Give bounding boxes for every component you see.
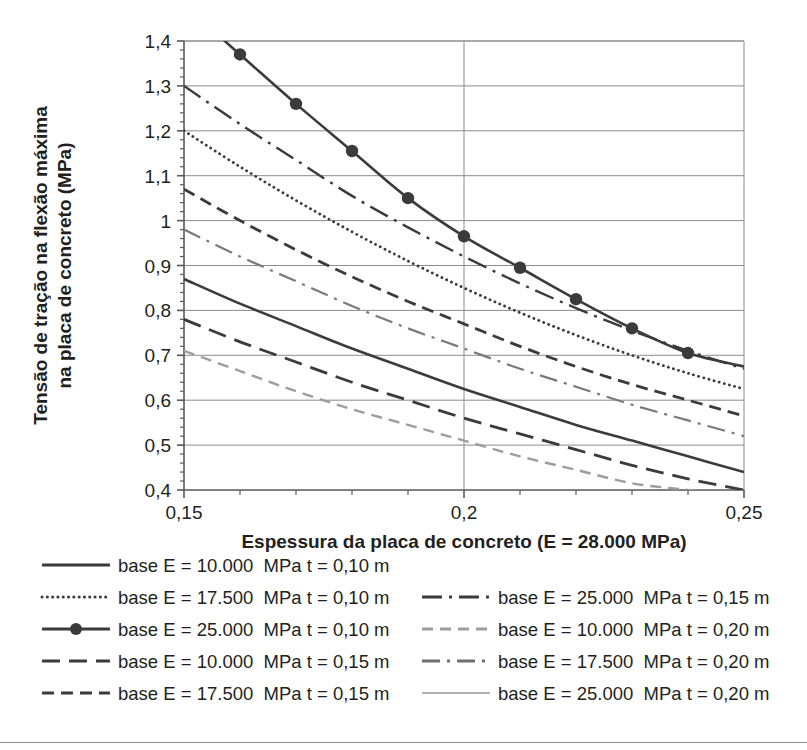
- legend-item-label: base E = 17.500 MPa t = 0,10 m: [118, 587, 390, 608]
- footer-divider: [0, 742, 807, 743]
- series-marker: [346, 145, 358, 157]
- legend-item[interactable]: base E = 10.000 MPa t = 0,15 m: [42, 651, 390, 672]
- legend: base E = 10.000 MPa t = 0,10 mbase E = 1…: [42, 555, 770, 704]
- series-marker: [402, 192, 414, 204]
- legend-item-label: base E = 25.000 MPa t = 0,10 m: [118, 619, 390, 640]
- y-tick-label: 1,1: [145, 166, 171, 187]
- series-marker: [514, 262, 526, 274]
- y-axis-title-line: Tensão de tração na flexão máxima: [30, 106, 51, 425]
- legend-item[interactable]: base E = 25.000 MPa t = 0,15 m: [422, 587, 770, 608]
- y-tick-label: 1,3: [145, 76, 171, 97]
- y-tick-label: 1,2: [145, 121, 171, 142]
- legend-item[interactable]: base E = 10.000 MPa t = 0,20 m: [422, 619, 770, 640]
- legend-item-label: base E = 17.500 MPa t = 0,20 m: [498, 651, 770, 672]
- y-tick-label: 0,5: [145, 435, 171, 456]
- x-tick-label: 0,2: [451, 502, 477, 523]
- legend-item[interactable]: base E = 25.000 MPa t = 0,20 m: [422, 683, 770, 704]
- series-marker: [626, 322, 638, 334]
- series-marker: [458, 230, 470, 242]
- legend-item[interactable]: base E = 17.500 MPa t = 0,10 m: [42, 587, 390, 608]
- legend-item-label: base E = 25.000 MPa t = 0,15 m: [498, 587, 770, 608]
- legend-marker: [70, 623, 82, 635]
- legend-item-label: base E = 10.000 MPa t = 0,20 m: [498, 619, 770, 640]
- line-chart: 0,40,50,60,70,80,911,11,21,31,40,150,20,…: [0, 0, 807, 750]
- legend-item[interactable]: base E = 17.500 MPa t = 0,20 m: [422, 651, 770, 672]
- legend-item-label: base E = 25.000 MPa t = 0,20 m: [498, 683, 770, 704]
- y-tick-label: 0,9: [145, 256, 171, 277]
- x-tick-label: 0,25: [726, 502, 763, 523]
- series-marker: [290, 98, 302, 110]
- legend-item-label: base E = 17.500 MPa t = 0,15 m: [118, 683, 390, 704]
- y-tick-label: 0,8: [145, 300, 171, 321]
- y-tick-label: 1,4: [145, 31, 172, 52]
- legend-item[interactable]: base E = 17.500 MPa t = 0,15 m: [42, 683, 390, 704]
- y-axis-title: Tensão de tração na flexão máximana plac…: [30, 106, 75, 425]
- y-tick-label: 0,7: [145, 345, 171, 366]
- legend-item[interactable]: base E = 10.000 MPa t = 0,10 m: [42, 555, 390, 576]
- y-axis-title-line: na placa de concreto (MPa): [54, 142, 75, 388]
- y-tick-label: 1: [160, 211, 171, 232]
- series-marker: [570, 293, 582, 305]
- series-marker: [234, 48, 246, 60]
- x-tick-label: 0,15: [166, 502, 203, 523]
- legend-item-label: base E = 10.000 MPa t = 0,10 m: [118, 555, 390, 576]
- legend-item[interactable]: base E = 25.000 MPa t = 0,10 m: [42, 619, 390, 640]
- x-axis-title: Espessura da placa de concreto (E = 28.0…: [241, 531, 686, 552]
- chart-figure: 0,40,50,60,70,80,911,11,21,31,40,150,20,…: [0, 0, 807, 750]
- y-tick-label: 0,6: [145, 390, 171, 411]
- legend-item-label: base E = 10.000 MPa t = 0,15 m: [118, 651, 390, 672]
- y-tick-label: 0,4: [145, 480, 172, 501]
